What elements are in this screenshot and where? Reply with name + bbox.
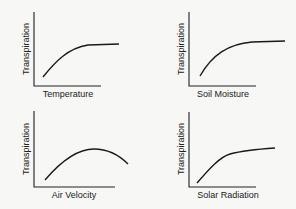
axes — [189, 12, 256, 86]
y-axis-label: Transpiration — [176, 23, 186, 75]
y-axis-label: Transpiration — [176, 123, 186, 175]
y-axis-label: Transpiration — [21, 23, 31, 75]
axes — [189, 112, 256, 187]
curve — [43, 44, 119, 77]
chart-temperature: Temperature Transpiration — [21, 12, 119, 99]
chart-solar-radiation: Solar Radiation Transpiration — [176, 112, 275, 200]
x-axis-label: Temperature — [43, 89, 94, 99]
x-axis-label: Soil Moisture — [197, 89, 249, 99]
transpiration-charts: Temperature Transpiration Soil Moisture … — [0, 0, 296, 209]
y-axis-label: Transpiration — [21, 123, 31, 175]
chart-air-velocity: Air Velocity Transpiration — [21, 111, 128, 200]
x-axis-label: Solar Radiation — [197, 190, 259, 200]
curve — [45, 149, 128, 180]
chart-soil-moisture: Soil Moisture Transpiration — [176, 12, 285, 99]
curve — [200, 41, 285, 76]
x-axis-label: Air Velocity — [52, 190, 97, 200]
curve — [197, 148, 275, 183]
axes — [34, 111, 115, 187]
